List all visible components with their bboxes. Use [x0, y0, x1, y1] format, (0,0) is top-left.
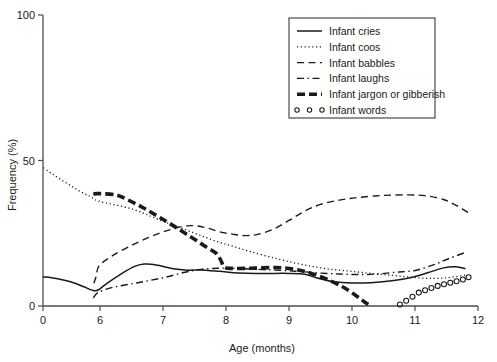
x-tick-label: 0: [40, 314, 46, 326]
x-tick-label: 11: [409, 314, 420, 326]
x-tick-label: 10: [346, 314, 358, 326]
y-tick-label: 100: [17, 9, 35, 21]
legend-item-label: Infant cries: [329, 25, 380, 37]
x-tick-label: 7: [160, 314, 166, 326]
legend-item-label: Infant coos: [329, 41, 380, 53]
x-tick-label: 9: [286, 314, 292, 326]
legend-item-label: Infant babbles: [329, 57, 395, 69]
chart-legend: Infant criesInfant coosInfant babblesInf…: [289, 18, 445, 118]
legend-item-label: Infant words: [329, 104, 386, 116]
legend-item-label: Infant jargon or gibberish: [329, 88, 445, 100]
y-tick-label: 0: [29, 300, 35, 312]
legend-item-label: Infant laughs: [329, 72, 389, 84]
y-axis-title: Frequency (%): [6, 139, 18, 211]
x-tick-label: 12: [472, 314, 484, 326]
x-axis-title: Age (months): [229, 342, 295, 354]
x-tick-label: 8: [223, 314, 229, 326]
chart-figure: 05010006789101112 Frequency (%) Age (mon…: [0, 0, 497, 362]
y-tick-label: 50: [23, 155, 35, 167]
chart-svg: 05010006789101112 Frequency (%) Age (mon…: [0, 0, 497, 362]
x-tick-label: 6: [97, 314, 103, 326]
